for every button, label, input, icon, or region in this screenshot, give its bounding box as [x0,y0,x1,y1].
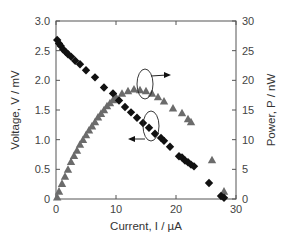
y-right-tick-label: 15 [242,104,254,116]
power-point [160,97,168,105]
axis-tick-labels: 010203000.51.01.52.02.53.0051015202530 [35,15,255,215]
voltage-series [53,36,228,202]
y-left-tick-label: 2.5 [35,45,50,57]
voltage-point [82,66,90,74]
plot-frame [56,21,236,199]
power-series [53,85,228,201]
y-left-tick-label: 1.0 [35,134,50,146]
arrow-left-icon [128,136,135,142]
y-right-tick-label: 25 [242,45,254,57]
y-left-axis-title: Voltage, V / mV [9,70,21,150]
x-tick-label: 0 [53,203,59,215]
y-right-tick-label: 10 [242,134,254,146]
y-left-tick-label: 0.5 [35,163,50,175]
power-point [178,109,186,117]
y-right-tick-label: 0 [242,193,248,205]
x-tick-label: 20 [170,203,182,215]
power-point [208,156,216,164]
voltage-point [205,179,213,187]
voltage-power-chart: 010203000.51.01.52.02.53.0051015202530 C… [0,0,286,245]
power-point [169,104,177,112]
power-point [61,172,69,180]
voltage-point [121,103,129,111]
y-right-axis-title: Power, P / nW [265,74,277,147]
power-point [142,87,150,95]
voltage-point [100,83,108,91]
y-left-tick-label: 2.0 [35,74,50,86]
x-axis-title: Current, I / µA [110,220,182,232]
voltage-point [91,73,99,81]
y-left-tick-label: 3.0 [35,15,50,27]
voltage-point [133,114,141,122]
arrow-right-icon [164,72,171,78]
y-left-tick-label: 0 [44,193,50,205]
power-ellipse-icon [137,69,153,99]
x-tick-label: 30 [230,203,242,215]
voltage-point [145,124,153,132]
axis-ticks [56,21,236,199]
power-point [64,165,72,173]
voltage-point [166,143,174,151]
y-left-tick-label: 1.5 [35,104,50,116]
y-right-tick-label: 30 [242,15,254,27]
y-right-tick-label: 5 [242,163,248,175]
x-tick-label: 10 [110,203,122,215]
power-point [58,179,66,187]
y-right-tick-label: 20 [242,74,254,86]
voltage-point [127,108,135,116]
